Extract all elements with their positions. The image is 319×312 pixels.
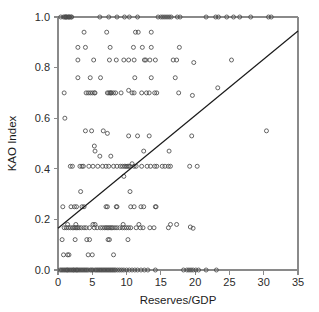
y-tick-label: 0.8: [35, 61, 50, 73]
x-tick-label: 30: [258, 276, 270, 288]
x-tick-label: 20: [189, 276, 201, 288]
x-tick-label: 25: [223, 276, 235, 288]
y-tick-label: 0.0: [35, 264, 50, 276]
scatter-plot-figure: 05101520253035 0.00.20.40.60.81.0 Reserv…: [0, 0, 319, 312]
x-tick-label: 0: [55, 276, 61, 288]
x-tick-label: 15: [155, 276, 167, 288]
x-tick-label: 5: [89, 276, 95, 288]
y-tick-label: 0.6: [35, 112, 50, 124]
x-tick-label: 10: [120, 276, 132, 288]
y-tick-label: 0.4: [35, 163, 50, 175]
x-tick-label: 35: [292, 276, 304, 288]
x-axis-title: Reserves/GDP: [140, 294, 217, 306]
y-axis-title: KAO Index: [6, 115, 18, 171]
y-tick-label: 0.2: [35, 213, 50, 225]
plot-canvas: 05101520253035 0.00.20.40.60.81.0 Reserv…: [0, 0, 319, 312]
y-tick-label: 1.0: [35, 11, 50, 23]
